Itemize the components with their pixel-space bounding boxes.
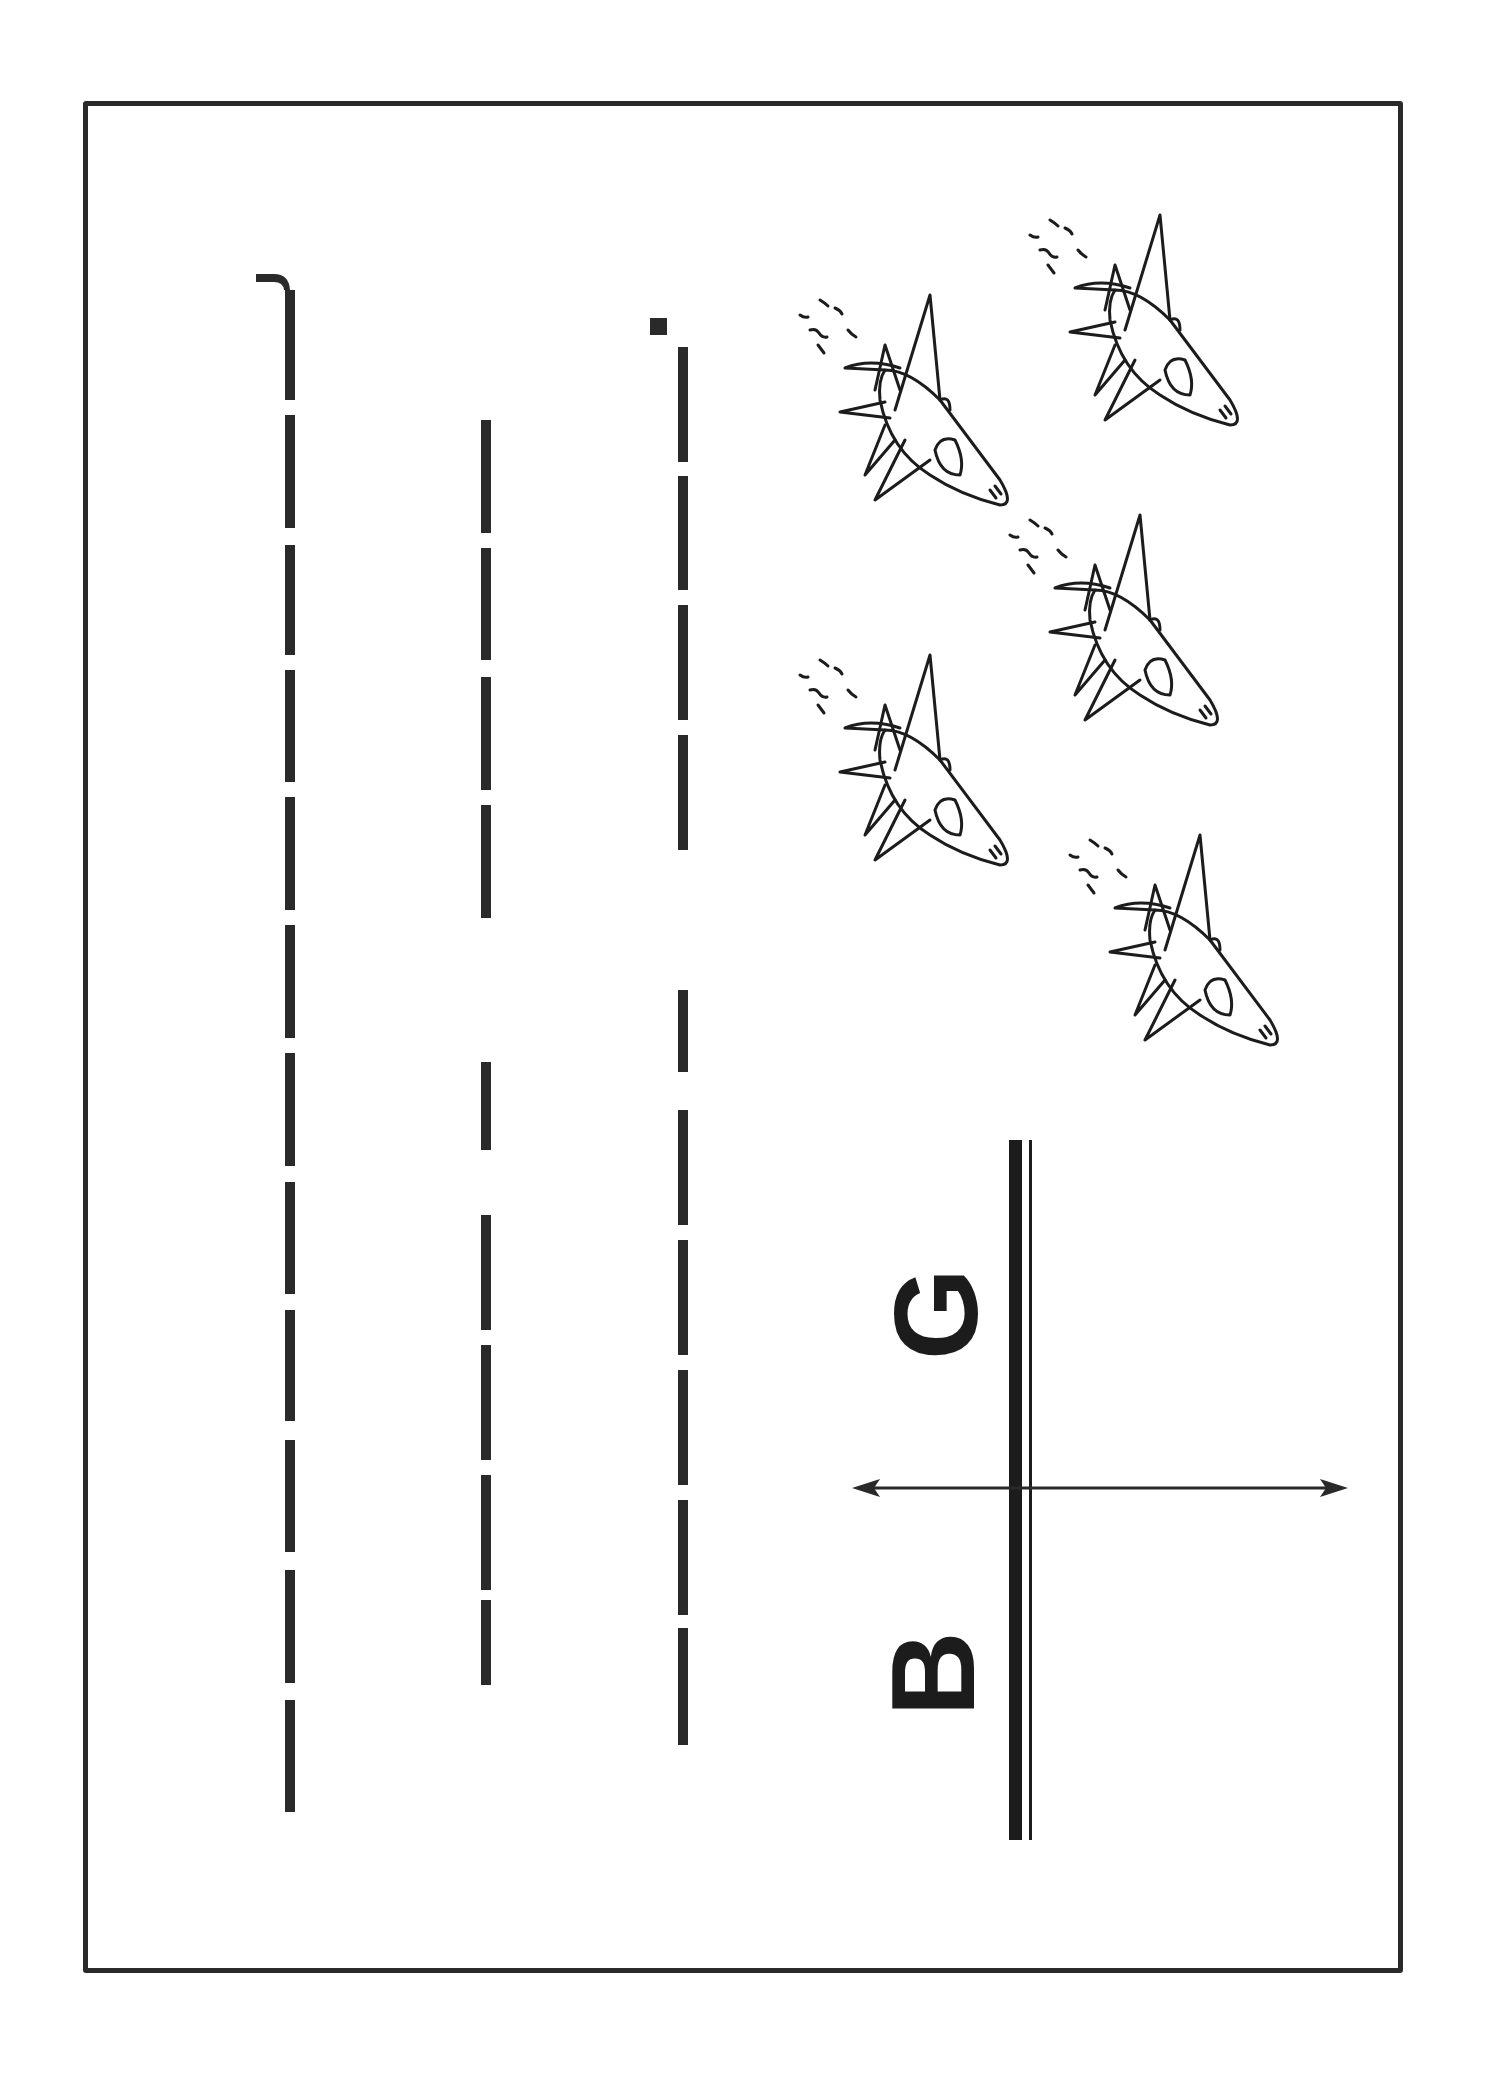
double-arrow [0,0,1493,2085]
letter-b: B [874,1631,992,1716]
letter-g: G [877,1268,995,1360]
